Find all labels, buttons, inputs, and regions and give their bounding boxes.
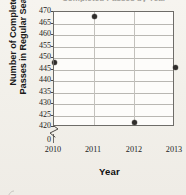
x-tick-2010: 2010 [38,145,68,154]
gridline-460 [54,35,173,36]
y-tick-430: 430 [33,99,51,107]
data-point-2012 [132,120,137,125]
chart-title: Completed Passes by Year [53,0,175,2]
gridline-465 [54,24,173,25]
y-tick-460: 460 [33,30,51,38]
scatter-plot-figure: Completed Passes by Year Number of Compl… [0,0,186,195]
data-point-2013 [173,65,178,70]
y-tick-470: 470 [33,7,51,15]
y-axis-title: Number of Completed Passes in Regular Se… [8,0,29,108]
y-tick-450: 450 [33,53,51,61]
gridline-450 [54,58,173,59]
gridline-430 [54,104,173,105]
gridline-455 [54,47,173,48]
gridline-435 [54,93,173,94]
y-tick-465: 465 [33,19,51,27]
x-tick-2011: 2011 [78,145,108,154]
axis-break-icon [49,124,59,136]
y-tick-445: 445 [33,65,51,73]
gridline-445 [54,70,173,71]
plot-area [53,11,174,126]
x-tick-2012: 2012 [119,145,149,154]
gridline-440 [54,81,173,82]
gridline-2011 [94,12,95,125]
data-point-2011 [92,14,97,19]
gridline-425 [54,116,173,117]
y-tick-455: 455 [33,42,51,50]
y-axis-title-line1: Number of Completed [8,0,18,108]
y-tick-435: 435 [33,88,51,96]
scan-artifact [7,184,16,192]
gridline-2012 [134,12,135,125]
y-tick-425: 425 [33,111,51,119]
x-tick-2013: 2013 [159,145,186,154]
y-axis-spine [53,11,54,126]
x-axis-title: Year [33,166,186,177]
y-axis-title-line2: Passes in Regular Season [18,0,28,108]
y-tick-440: 440 [33,76,51,84]
chart-screenshot: Completed Passes by Year Number of Compl… [0,0,186,195]
